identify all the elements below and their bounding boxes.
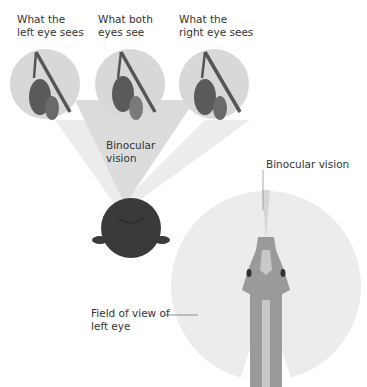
right-eye-view-circle xyxy=(179,49,249,120)
label-left-eye-sees: What the left eye sees xyxy=(17,13,84,39)
binocular-vision-diagram xyxy=(0,0,367,387)
label-right-eye-sees: What the right eye sees xyxy=(179,13,253,39)
label-binocular-vision-human: Binocular vision xyxy=(106,139,155,165)
left-eye-view-circle xyxy=(10,49,80,120)
label-field-of-view-left-eye: Field of view of left eye xyxy=(91,307,170,333)
label-binocular-vision-bird: Binocular vision xyxy=(266,158,349,171)
head-top-view xyxy=(92,198,170,258)
label-both-eyes-see: What both eyes see xyxy=(98,13,153,39)
